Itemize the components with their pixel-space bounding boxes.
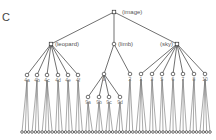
leaf-node [91, 131, 94, 134]
leaf-node [182, 131, 185, 134]
leaf-node [111, 131, 114, 134]
leaf-node [115, 131, 118, 134]
leaf-node [131, 131, 134, 134]
label-4e: 4e [65, 77, 71, 83]
leaf-node [121, 131, 124, 134]
label-3: 3 [151, 76, 154, 82]
leaf-node [175, 131, 178, 134]
tree-diagram: (image)(leopard)(limb)(sky)4a4b4c4d4e4f9… [0, 0, 216, 140]
leaf-node [145, 131, 148, 134]
tree-edge [150, 79, 152, 132]
leaf-node [68, 131, 71, 134]
tree-edge [51, 44, 68, 75]
leaf-node [24, 131, 27, 134]
label-9: 9 [103, 76, 106, 82]
tree-edge [120, 102, 123, 132]
leaf-node [37, 131, 40, 134]
leaf-node [192, 131, 195, 134]
label-9c: 9c [106, 99, 112, 105]
tree-edge [56, 80, 58, 132]
leaf-node [71, 131, 74, 134]
label-leopard: (leopard) [55, 41, 79, 47]
tree-edge [160, 79, 162, 132]
leaf-node [152, 131, 155, 134]
leaf-node [58, 131, 61, 134]
label-4c: 4c [44, 77, 50, 83]
label-4d: 4d [55, 77, 61, 83]
label-sky: (sky) [160, 41, 173, 47]
tree-edge [130, 79, 133, 132]
label-2: 2 [129, 76, 132, 82]
label-1: 1 [140, 76, 143, 82]
tree-edge [76, 80, 78, 132]
leaf-node [64, 131, 67, 134]
leaf-node [195, 131, 198, 134]
tree-edge [51, 44, 78, 75]
leaf-node [138, 131, 141, 134]
leaf-node [74, 131, 77, 134]
leaf-node [98, 131, 101, 134]
leaf-node [48, 131, 51, 134]
tree-edge [66, 80, 68, 132]
tree-edge [51, 44, 58, 75]
tree-edge [183, 79, 187, 132]
leaf-node [155, 131, 158, 134]
tree-edge [170, 79, 173, 132]
leaf-node [81, 131, 84, 134]
tree-edge [180, 79, 183, 132]
tree-edge [114, 12, 177, 44]
label-5: 5 [161, 76, 164, 82]
leaf-node [128, 131, 131, 134]
leaf-node [84, 131, 87, 134]
leaf-node [189, 131, 192, 134]
leaf-node [209, 131, 212, 134]
label-9b: 9b [96, 99, 102, 105]
tree-edge [104, 44, 114, 74]
leaf-node [78, 131, 81, 134]
leaf-node [202, 131, 205, 134]
leaf-node [162, 131, 165, 134]
tree-edge [177, 44, 205, 74]
tree-edge [37, 80, 39, 132]
label-6: 6 [172, 76, 175, 82]
leaf-node [95, 131, 98, 134]
leaf-node [172, 131, 175, 134]
leaf-node [178, 131, 181, 134]
node-limb [112, 42, 116, 46]
root-label: (image) [122, 9, 142, 15]
label-9a: 9a [85, 99, 91, 105]
leaf-node [168, 131, 171, 134]
label-10: 10 [202, 76, 208, 82]
node-leopard [49, 42, 53, 46]
label-4b: 4b [34, 77, 40, 83]
leaf-node [54, 131, 57, 134]
leaf-node [101, 131, 104, 134]
leaf-node [158, 131, 161, 134]
label-4f: 4f [76, 77, 81, 83]
leaf-node [27, 131, 30, 134]
tree-edge [99, 102, 103, 132]
label-4a: 4a [24, 77, 30, 83]
tree-edge [27, 80, 29, 132]
leaf-node [148, 131, 151, 134]
root-node [112, 10, 116, 14]
leaf-node [61, 131, 64, 134]
leaf-node [165, 131, 168, 134]
tree-edge [86, 102, 88, 132]
tree-edge [173, 79, 176, 132]
node-sky [175, 42, 179, 46]
tree-edge [106, 102, 109, 132]
leaf-node [88, 131, 91, 134]
leaf-node [185, 131, 188, 134]
leaf-node [51, 131, 54, 134]
leaf-node [108, 131, 111, 134]
edges [22, 12, 210, 132]
leaf-node [34, 131, 37, 134]
tree-edge [96, 102, 99, 132]
leaf-node [44, 131, 47, 134]
label-7: 7 [182, 76, 185, 82]
leaf-node [205, 131, 208, 134]
tree-edge [51, 12, 114, 44]
leaf-node [199, 131, 202, 134]
leaf-node [135, 131, 138, 134]
